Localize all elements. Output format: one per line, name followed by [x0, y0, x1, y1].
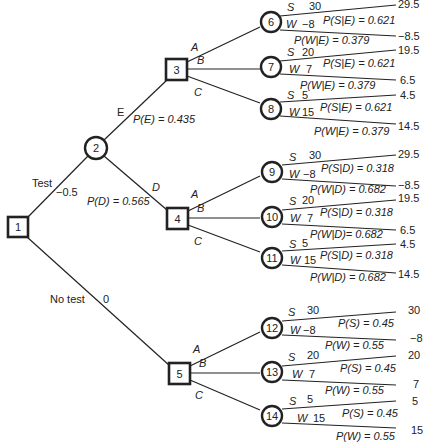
- svg-text:P(W|D) = 0.682: P(W|D) = 0.682: [310, 183, 386, 195]
- svg-text:P(S) = 0.45: P(S) = 0.45: [340, 362, 397, 374]
- branch-cost-test: −0.5: [56, 186, 78, 198]
- svg-text:29.5: 29.5: [398, 0, 419, 10]
- svg-text:P(S) = 0.45: P(S) = 0.45: [342, 407, 399, 419]
- svg-text:S: S: [289, 395, 297, 407]
- edge-1-5: [27, 237, 170, 366]
- chance-node-6[interactable]: 6: [261, 12, 281, 32]
- svg-text:W: W: [290, 212, 302, 224]
- option-a-4: A: [190, 188, 198, 200]
- chance-node-11[interactable]: 11: [262, 248, 282, 268]
- svg-text:W: W: [292, 368, 304, 380]
- chance-node-8[interactable]: 8: [261, 99, 281, 119]
- chance-node-9[interactable]: 9: [262, 162, 282, 182]
- chance-node-12[interactable]: 12: [262, 318, 282, 338]
- svg-text:S: S: [287, 46, 295, 58]
- option-c-5: C: [195, 389, 203, 401]
- svg-text:14.5: 14.5: [398, 120, 419, 132]
- decision-node-1[interactable]: 1: [8, 217, 28, 237]
- node-id: 1: [15, 221, 21, 233]
- svg-text:W: W: [289, 106, 301, 118]
- svg-text:20: 20: [307, 349, 319, 361]
- svg-text:W: W: [290, 254, 302, 266]
- chance-node-10[interactable]: 10: [262, 207, 282, 227]
- option-b-5: B: [199, 357, 206, 369]
- chance-12-labels: S 30 W −8 P(S) = 0.45 P(W) = 0.55 30 −8: [288, 304, 423, 351]
- svg-text:S: S: [289, 238, 297, 250]
- svg-text:−8.5: −8.5: [398, 179, 420, 191]
- svg-text:4.5: 4.5: [400, 238, 415, 250]
- svg-text:7: 7: [306, 63, 312, 75]
- svg-text:30: 30: [307, 304, 319, 316]
- branch-label-e: E: [117, 106, 124, 118]
- decision-node-4[interactable]: 4: [167, 208, 188, 229]
- chance-11-labels: S 5 W 15 P(S|D) = 0.318 P(W|D) = 0.682 4…: [289, 237, 419, 283]
- svg-text:W: W: [286, 18, 298, 30]
- chance-node-13[interactable]: 13: [262, 362, 282, 382]
- node-id: 3: [173, 64, 179, 76]
- svg-text:P(W|E) = 0.379: P(W|E) = 0.379: [300, 79, 375, 91]
- svg-text:5: 5: [302, 89, 308, 101]
- option-b-3: B: [197, 54, 204, 66]
- svg-text:20: 20: [408, 349, 420, 361]
- node-id: 2: [93, 142, 99, 154]
- svg-text:P(W) = 0.55: P(W) = 0.55: [336, 430, 396, 442]
- node-id: 4: [174, 213, 180, 225]
- svg-text:6.5: 6.5: [400, 74, 415, 86]
- svg-text:P(S|D) = 0.318: P(S|D) = 0.318: [320, 249, 394, 261]
- svg-text:7: 7: [268, 61, 274, 73]
- svg-text:−8.5: −8.5: [398, 30, 420, 42]
- decision-tree-diagram: 1 2 3 4 5 6 7 8 9 10 11 12 13 14 Test −0…: [0, 0, 428, 447]
- svg-text:10: 10: [266, 211, 278, 223]
- edge-2-3: [104, 80, 167, 140]
- svg-text:15: 15: [302, 106, 314, 118]
- branch-label-d: D: [152, 181, 160, 193]
- svg-text:15: 15: [304, 254, 316, 266]
- svg-text:S: S: [289, 195, 297, 207]
- chance-7-labels: S 20 W 7 P(S|E) = 0.621 P(W|E) = 0.379 1…: [287, 44, 419, 91]
- svg-text:−8: −8: [303, 168, 316, 180]
- svg-text:W: W: [289, 63, 301, 75]
- svg-text:5: 5: [412, 395, 418, 407]
- svg-text:13: 13: [266, 366, 278, 378]
- option-c-3: C: [194, 86, 202, 98]
- svg-text:P(S) = 0.45: P(S) = 0.45: [338, 317, 395, 329]
- chance-13-labels: S 20 W 7 P(S) = 0.45 P(W) = 0.55 20 7: [288, 349, 420, 396]
- svg-text:−8: −8: [303, 324, 316, 336]
- branch-label-no-test: No test: [50, 293, 85, 305]
- option-c-4: C: [194, 235, 202, 247]
- decision-node-5[interactable]: 5: [169, 363, 190, 384]
- svg-text:P(S|E) = 0.621: P(S|E) = 0.621: [323, 14, 395, 26]
- svg-text:20: 20: [302, 194, 314, 206]
- svg-text:9: 9: [269, 166, 275, 178]
- svg-text:S: S: [287, 89, 295, 101]
- svg-text:30: 30: [408, 304, 420, 316]
- svg-text:30: 30: [309, 0, 321, 12]
- decision-node-3[interactable]: 3: [166, 59, 187, 80]
- chance-node-14[interactable]: 14: [262, 406, 282, 426]
- svg-text:P(W|D) = 0.682: P(W|D) = 0.682: [310, 271, 386, 283]
- branch-cost-no-test: 0: [103, 293, 109, 305]
- prob-label-e: P(E) = 0.435: [133, 113, 196, 125]
- node-id: 5: [176, 368, 182, 380]
- svg-text:P(W) = 0.55: P(W) = 0.55: [325, 384, 385, 396]
- svg-text:14.5: 14.5: [398, 268, 419, 280]
- svg-text:W: W: [290, 324, 302, 336]
- chance-node-7[interactable]: 7: [261, 57, 281, 77]
- svg-text:8: 8: [268, 103, 274, 115]
- svg-text:5: 5: [307, 393, 313, 405]
- option-a-3: A: [190, 41, 198, 53]
- svg-text:−8: −8: [410, 332, 423, 344]
- svg-text:W: W: [289, 168, 301, 180]
- svg-text:S: S: [288, 306, 296, 318]
- svg-text:6: 6: [268, 16, 274, 28]
- chance-6-labels: S 30 W −8 P(S|E) = 0.621 P(W|E) = 0.379 …: [286, 0, 420, 46]
- svg-text:P(W|D)= 0.682: P(W|D)= 0.682: [310, 228, 383, 240]
- chance-9-labels: S 30 W −8 P(S|D) = 0.318 P(W|D) = 0.682 …: [289, 148, 420, 195]
- chance-node-2[interactable]: 2: [85, 137, 107, 159]
- svg-text:P(W) = 0.55: P(W) = 0.55: [325, 339, 385, 351]
- option-a-5: A: [192, 343, 200, 355]
- svg-text:7: 7: [413, 378, 419, 390]
- svg-text:W: W: [297, 412, 309, 424]
- svg-text:7: 7: [309, 368, 315, 380]
- chance-8-labels: S 5 W 15 P(S|E) = 0.621 P(W|E) = 0.379 4…: [287, 89, 419, 137]
